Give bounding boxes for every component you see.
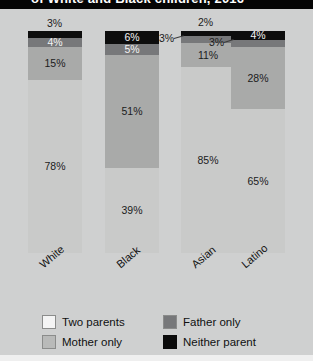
legend-item-mother-only[interactable]: Mother only bbox=[42, 335, 163, 349]
legend-item-neither-parent[interactable]: Neither parent bbox=[163, 335, 284, 349]
chart-title: of White and Black children, 2016 bbox=[31, 0, 244, 6]
value-label: 51% bbox=[121, 106, 142, 117]
value-label: 78% bbox=[44, 161, 65, 172]
bar-white: 4% 15% 78% bbox=[28, 31, 82, 253]
callout-white-neither-parent: 3% bbox=[47, 18, 62, 29]
segment-black-neither-parent: 6% bbox=[105, 31, 159, 44]
bar-latino: 4% 28% 65% bbox=[231, 31, 285, 253]
value-label: 39% bbox=[121, 205, 142, 216]
bar-asian: 11% 85% bbox=[181, 31, 235, 253]
segment-black-two-parents: 39% bbox=[105, 168, 159, 253]
segment-white-father-only: 4% bbox=[28, 38, 82, 47]
two-parents-swatch-icon bbox=[42, 315, 56, 329]
value-label: 11% bbox=[198, 50, 218, 61]
bottom-margin-rule bbox=[0, 355, 313, 361]
legend-label: Neither parent bbox=[183, 336, 256, 348]
legend-label: Two parents bbox=[62, 316, 125, 328]
segment-latino-neither-parent: 4% bbox=[231, 31, 285, 40]
bar-black: 6% 5% 51% 39% bbox=[105, 31, 159, 253]
segment-latino-father-only bbox=[231, 40, 285, 47]
segment-white-mother-only: 15% bbox=[28, 47, 82, 80]
value-label: 28% bbox=[247, 73, 268, 84]
neither-parent-swatch-icon bbox=[163, 335, 177, 349]
chart-figure: of White and Black children, 2016 4% 15%… bbox=[0, 0, 313, 361]
value-label: 85% bbox=[197, 155, 218, 166]
segment-asian-two-parents: 85% bbox=[181, 67, 235, 253]
legend-label: Mother only bbox=[62, 336, 122, 348]
father-only-swatch-icon bbox=[163, 315, 177, 329]
callout-asian-neither-parent: 2% bbox=[198, 17, 213, 28]
segment-latino-mother-only: 28% bbox=[231, 47, 285, 109]
legend-row: Two parents Father only bbox=[42, 315, 292, 329]
mother-only-swatch-icon bbox=[42, 335, 56, 349]
chart-legend: Two parents Father only Mother only Neit… bbox=[42, 315, 292, 355]
segment-latino-two-parents: 65% bbox=[231, 109, 285, 253]
value-label: 65% bbox=[247, 176, 268, 187]
callout-asian-father-only: 3% bbox=[159, 33, 174, 44]
callout-latino-father-only: 3% bbox=[209, 37, 224, 48]
segment-asian-mother-only: 11% bbox=[181, 43, 235, 67]
segment-black-father-only: 5% bbox=[105, 44, 159, 55]
legend-label: Father only bbox=[183, 316, 241, 328]
value-label: 5% bbox=[124, 44, 139, 55]
legend-item-father-only[interactable]: Father only bbox=[163, 315, 284, 329]
value-label: 15% bbox=[44, 58, 65, 69]
segment-white-two-parents: 78% bbox=[28, 80, 82, 253]
title-bar: of White and Black children, 2016 bbox=[0, 0, 313, 9]
value-label: 6% bbox=[124, 32, 139, 43]
segment-black-mother-only: 51% bbox=[105, 55, 159, 168]
plot-area: 4% 15% 78% 3% 6% 5% 51% 39% bbox=[0, 9, 313, 361]
legend-item-two-parents[interactable]: Two parents bbox=[42, 315, 163, 329]
legend-row: Mother only Neither parent bbox=[42, 335, 292, 349]
